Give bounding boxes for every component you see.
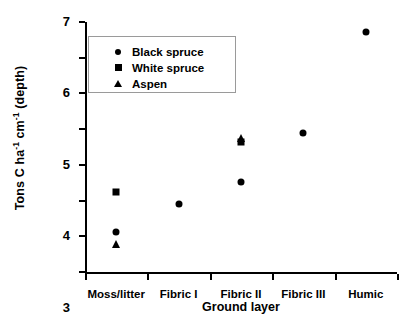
data-point-circle	[362, 29, 369, 36]
legend-item: White spruce	[111, 59, 204, 76]
x-axis-tick-label: Humic	[348, 288, 383, 300]
y-axis-tick: 4	[79, 128, 85, 130]
y-axis-tick: 7	[79, 21, 85, 23]
x-axis-tick	[85, 274, 87, 280]
x-axis-tick	[147, 274, 149, 280]
data-point-circle	[113, 229, 120, 236]
square-marker-icon	[111, 64, 125, 71]
y-axis-tick-label: 4	[63, 228, 70, 243]
x-axis-tick	[272, 274, 274, 280]
y-axis-line	[85, 22, 87, 272]
y-axis-title-sup1: -1	[11, 142, 21, 150]
y-axis-title-pre: Tons C ha	[13, 150, 27, 210]
legend-item-label: Aspen	[132, 78, 167, 90]
x-axis-tick-label: Fibric II	[221, 288, 262, 300]
chart-legend: Black spruceWhite spruceAspen	[88, 36, 236, 93]
x-axis-tick	[335, 274, 337, 280]
y-axis-tick: 5	[79, 92, 85, 94]
x-axis-tick-label: Fibric III	[281, 288, 325, 300]
y-axis-title-container: Tons C ha-1 cm-1 (depth)	[0, 0, 40, 290]
data-point-circle	[300, 130, 307, 137]
y-axis-tick: 2	[79, 200, 85, 202]
x-axis-tick-label: Fibric I	[160, 288, 198, 300]
y-axis-title: Tons C ha-1 cm-1 (depth)	[13, 22, 27, 254]
triangle-marker-icon	[111, 80, 125, 87]
y-axis-title-post: (depth)	[13, 66, 27, 113]
legend-item-label: Black spruce	[132, 46, 204, 58]
data-point-square	[113, 188, 120, 195]
data-point-triangle	[237, 134, 245, 142]
x-axis-tick	[210, 274, 212, 280]
data-point-triangle	[112, 240, 120, 248]
y-axis-tick: 3	[79, 164, 85, 166]
y-axis-tick: 1	[79, 235, 85, 237]
data-point-circle	[175, 201, 182, 208]
y-axis-title-mid: cm	[13, 120, 27, 142]
legend-item: Black spruce	[111, 43, 204, 60]
legend-item-label: White spruce	[132, 62, 204, 74]
x-axis-tick	[397, 274, 399, 280]
y-axis-tick-label: 5	[63, 156, 70, 171]
y-axis-tick-label: 7	[63, 14, 70, 29]
y-axis-tick: 6	[79, 57, 85, 59]
y-axis-tick-label: 3	[63, 299, 70, 314]
x-axis-tick-label: Moss/litter	[87, 288, 145, 300]
x-axis-title: Ground layer	[85, 300, 397, 314]
circle-marker-icon	[111, 49, 125, 55]
y-axis-title-sup2: -1	[11, 112, 21, 120]
data-point-circle	[238, 179, 245, 186]
legend-item: Aspen	[111, 75, 167, 92]
y-axis-tick: 0	[79, 271, 85, 273]
y-axis-tick-label: 6	[63, 85, 70, 100]
x-axis-line	[85, 272, 397, 274]
scatter-chart-figure: Tons C ha-1 cm-1 (depth) 01234567 Moss/l…	[0, 0, 418, 328]
